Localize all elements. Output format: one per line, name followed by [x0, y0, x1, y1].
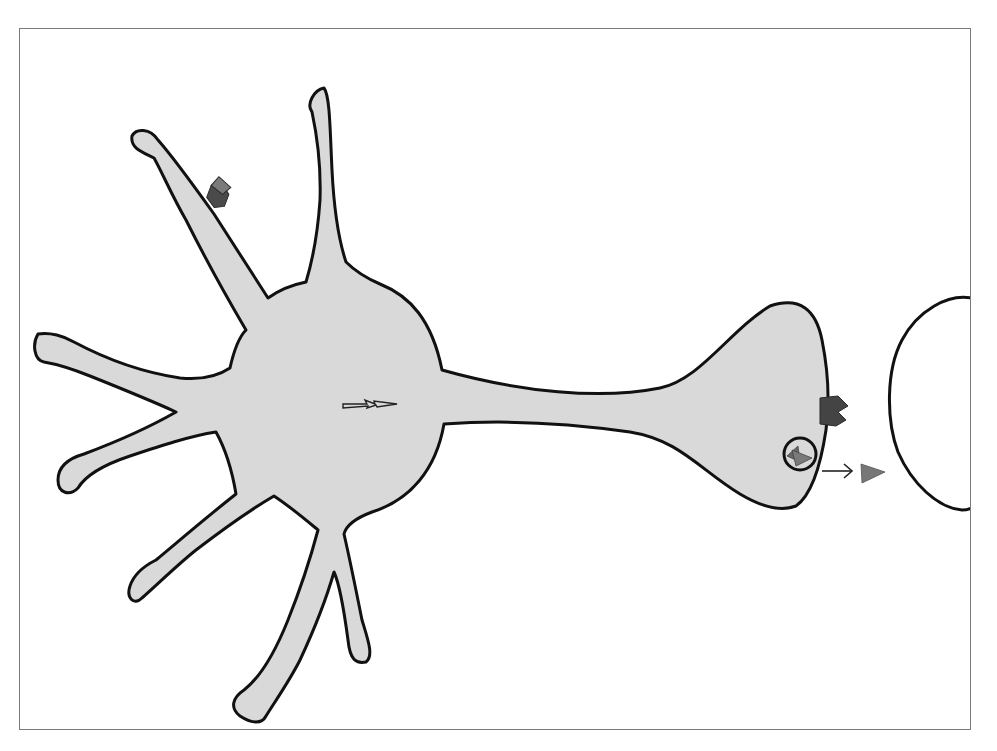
postsynaptic-cell — [889, 297, 974, 510]
arrow-right-icon — [822, 464, 852, 478]
vesicle-icon — [784, 438, 816, 470]
neuron-diagram — [0, 0, 997, 751]
terminal-receptor-icon — [820, 396, 848, 426]
neuron-cell — [35, 88, 828, 722]
neurotransmitter-icon — [861, 464, 885, 483]
diagram-stage: Neuron with synaptic terminal — [0, 0, 997, 751]
